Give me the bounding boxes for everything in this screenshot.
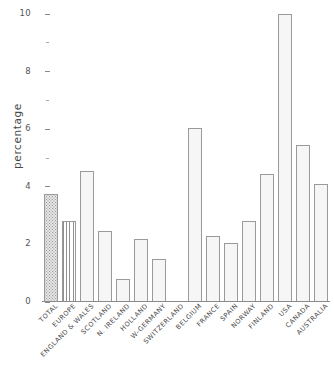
y-tick-label: 10 [19,8,31,18]
bar-england-wales [80,171,94,302]
bar-france [206,236,220,302]
bar-w-germany [152,259,166,302]
bar-belgium [188,128,202,302]
bar-spain [224,243,238,302]
bar-finland [260,174,274,302]
y-tick-label: 6 [25,123,31,133]
x-axis-category-labels: TOTALEUROPEENGLAND & WALESSCOTLANDN. IRE… [42,302,330,374]
bar-n-ireland [116,279,130,302]
bar-australia [314,184,328,302]
bar-usa [278,14,292,302]
plot-area: 1086420 [42,14,330,302]
y-tick-label: 0 [25,296,31,306]
y-axis-title: percentage [11,86,23,186]
bar-total [44,194,58,302]
bar-europe [62,221,76,302]
y-tick-label: 2 [25,238,31,248]
y-tick-label: 4 [25,181,31,191]
bars-layer [42,14,330,302]
bar-canada [296,145,310,302]
bar-scotland [98,231,112,302]
bar-norway [242,221,256,302]
bar-holland [134,239,148,302]
bar-chart: percentage 1086420 TOTALEUROPEENGLAND & … [0,0,334,374]
y-tick-label: 8 [25,66,31,76]
